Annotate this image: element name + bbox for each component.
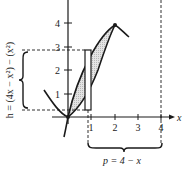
- intersection-point: [66, 115, 70, 119]
- intersection-point: [113, 23, 117, 27]
- curve-upper: [64, 25, 129, 137]
- x-axis-label: x: [176, 112, 182, 123]
- x-tick-label: 1: [89, 122, 94, 133]
- height-brace: [19, 52, 28, 108]
- representative-rectangle: [85, 50, 91, 110]
- distance-label: p = 4 − x: [102, 155, 141, 166]
- height-label: h = (4x − x²) − (x²): [4, 42, 16, 118]
- x-axis-arrow-icon: [169, 115, 175, 120]
- y-tick-label: 1: [55, 89, 60, 100]
- x-tick-label: 2: [113, 122, 118, 133]
- distance-brace: [88, 143, 162, 152]
- x-tick-label: 3: [136, 122, 141, 133]
- y-tick-label: 2: [55, 65, 60, 76]
- y-tick-label: 4: [55, 18, 60, 29]
- area-between-curves-diagram: 1 2 3 4 1 2 3 4 x h = (4x − x²) − (x²) p…: [0, 0, 183, 175]
- y-tick-label: 3: [55, 42, 60, 53]
